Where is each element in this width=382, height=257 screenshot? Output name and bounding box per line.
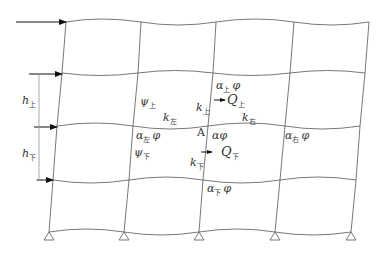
support-4 — [270, 232, 280, 240]
label-Q-bottom: Q下 — [221, 144, 239, 161]
label-psi-bottom: ψ下 — [134, 146, 150, 161]
beams — [49, 19, 369, 235]
support-5 — [346, 232, 356, 240]
label-alpha-bottom: α下φ — [207, 182, 231, 197]
label-alpha-left: α左φ — [136, 129, 160, 144]
label-k-bottom: k下 — [190, 156, 204, 171]
beam-floor-1 — [53, 177, 356, 183]
label-Q-top: Q上 — [227, 92, 245, 109]
frame-diagram: h上 h下 α上φ ψ上 k上 Q上 k左 k右 α左φ A αφ α右φ ψ下… — [0, 0, 382, 257]
story-height-dimensions: h上 h下 — [22, 74, 42, 180]
joint-label-A: A — [196, 126, 206, 139]
label-h-upper: h上 — [22, 94, 36, 109]
label-k-right: k右 — [242, 111, 256, 126]
label-h-lower: h下 — [22, 147, 36, 162]
support-2 — [119, 232, 129, 240]
label-alpha-center: αφ — [212, 129, 227, 142]
label-psi-top: ψ上 — [140, 95, 156, 110]
label-k-top: k上 — [196, 101, 210, 116]
supports — [44, 232, 356, 240]
support-1 — [44, 232, 54, 240]
support-3 — [194, 232, 204, 240]
label-alpha-right: α右φ — [285, 129, 309, 144]
beam-roof — [66, 19, 369, 25]
label-k-left: k左 — [163, 111, 177, 126]
columns — [49, 22, 369, 232]
